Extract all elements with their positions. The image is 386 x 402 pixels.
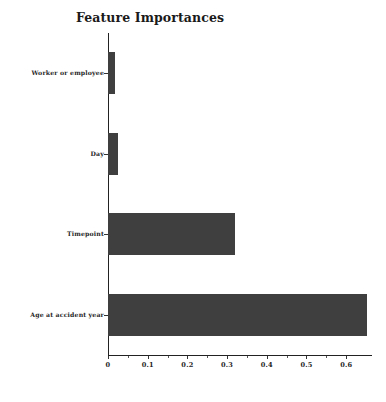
x-axis-minor-tick-mark (168, 356, 169, 358)
y-axis-tick-timepoint: Timepoint (0, 230, 104, 237)
x-axis-tick-mark (227, 356, 228, 359)
x-axis-tick-mark (108, 356, 109, 359)
y-axis-tick-day: Day (0, 150, 104, 157)
y-axis-tick-mark (104, 315, 108, 316)
x-axis-tick-label-6: 0.6 (331, 361, 361, 369)
y-axis-tick-mark (104, 234, 108, 235)
x-axis-minor-tick-mark (247, 356, 248, 358)
bar-worker-or-employee[interactable] (108, 52, 115, 94)
y-axis-tick-label: Worker or employee (32, 69, 104, 76)
x-axis-tick-label-3: 0.3 (212, 361, 242, 369)
x-axis-tick-mark (306, 356, 307, 359)
y-axis-tick-mark (104, 73, 108, 74)
x-axis-tick-mark (187, 356, 188, 359)
y-axis-tick-mark (104, 154, 108, 155)
x-axis-tick-mark (267, 356, 268, 359)
y-axis-tick-age-at-accident-year: Age at accident year (0, 311, 104, 318)
chart-title: Feature Importances (0, 10, 343, 25)
bar-age-at-accident-year[interactable] (108, 294, 367, 336)
x-axis-minor-tick-mark (326, 356, 327, 358)
y-axis-tick-worker-or-employee: Worker or employee (0, 69, 104, 76)
y-axis-tick-label: Age at accident year (30, 311, 104, 318)
y-axis-tick-label: Timepoint (67, 230, 104, 237)
x-axis-tick-label-2: 0.2 (172, 361, 202, 369)
bar-day[interactable] (108, 133, 118, 175)
x-axis-tick-mark (346, 356, 347, 359)
x-axis-tick-label-1: 0.1 (133, 361, 163, 369)
y-axis-tick-label: Day (91, 150, 104, 157)
x-axis-tick-label-0: 0 (93, 361, 123, 369)
x-axis-tick-label-4: 0.4 (252, 361, 282, 369)
bar-timepoint[interactable] (108, 213, 235, 255)
x-axis-minor-tick-mark (287, 356, 288, 358)
x-axis-tick-label-5: 0.5 (291, 361, 321, 369)
x-axis-minor-tick-mark (207, 356, 208, 358)
x-axis-minor-tick-mark (128, 356, 129, 358)
figure-canvas: Feature Importances Worker or employee D… (0, 0, 386, 402)
x-axis-tick-mark (148, 356, 149, 359)
